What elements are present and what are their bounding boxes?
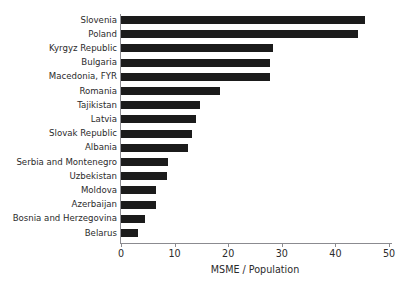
bar-row xyxy=(121,30,389,38)
bar xyxy=(121,16,365,24)
y-axis-label: Azerbaijan xyxy=(72,200,117,209)
y-axis-label: Kyrgyz Republic xyxy=(49,44,117,53)
bar-row xyxy=(121,87,389,95)
y-axis-label: Bosnia and Herzegovina xyxy=(13,214,117,223)
y-axis-label: Romania xyxy=(79,87,117,96)
y-axis-label: Uzbekistan xyxy=(70,172,117,181)
bar-row xyxy=(121,115,389,123)
bar xyxy=(121,130,192,138)
bar-row xyxy=(121,73,389,81)
x-axis-tick xyxy=(335,243,336,247)
y-axis-label: Slovenia xyxy=(80,16,117,25)
x-axis-title-text: MSME / Population xyxy=(211,264,299,275)
bar xyxy=(121,186,156,194)
bar xyxy=(121,115,196,123)
y-axis-label: Poland xyxy=(88,30,117,39)
x-axis-tick xyxy=(175,243,176,247)
bar xyxy=(121,44,273,52)
x-axis-tick xyxy=(121,243,122,247)
bar xyxy=(121,144,188,152)
x-axis-tick-label: 50 xyxy=(383,248,395,259)
x-axis-tick-label: 0 xyxy=(118,248,124,259)
bar xyxy=(121,73,270,81)
bar-row xyxy=(121,44,389,52)
x-axis-tick xyxy=(389,243,390,247)
bar-row xyxy=(121,158,389,166)
bar-row xyxy=(121,201,389,209)
plot-area xyxy=(121,16,389,242)
bar-row xyxy=(121,215,389,223)
bar xyxy=(121,158,168,166)
bar-row xyxy=(121,101,389,109)
x-axis-tick-label: 10 xyxy=(168,248,180,259)
y-axis-label: Serbia and Montenegro xyxy=(16,158,117,167)
bar xyxy=(121,215,145,223)
bar xyxy=(121,172,167,180)
x-axis-tick-label: 20 xyxy=(222,248,234,259)
chart-container: SloveniaPolandKyrgyz RepublicBulgariaMac… xyxy=(0,0,406,284)
x-axis-tick-label: 40 xyxy=(329,248,341,259)
bar xyxy=(121,229,138,237)
clipped-title xyxy=(0,0,406,3)
bar-row xyxy=(121,186,389,194)
x-axis-tick-label: 30 xyxy=(276,248,288,259)
bar xyxy=(121,30,358,38)
bar xyxy=(121,101,200,109)
bar-row xyxy=(121,130,389,138)
y-axis-label: Bulgaria xyxy=(81,58,117,67)
y-axis-label: Albania xyxy=(85,143,117,152)
y-axis-category-labels: SloveniaPolandKyrgyz RepublicBulgariaMac… xyxy=(0,16,117,242)
bar-row xyxy=(121,59,389,67)
y-axis-label: Belarus xyxy=(85,229,117,238)
bar-row xyxy=(121,16,389,24)
y-axis-label: Tajikistan xyxy=(77,101,117,110)
y-axis-label: Slovak Republic xyxy=(49,129,117,138)
x-axis-line xyxy=(120,243,392,244)
y-axis-label: Latvia xyxy=(91,115,117,124)
y-axis-label: Moldova xyxy=(81,186,117,195)
bar xyxy=(121,87,220,95)
x-axis-tick xyxy=(228,243,229,247)
y-axis-label: Macedonia, FYR xyxy=(49,72,117,81)
x-axis-title: MSME / Population xyxy=(0,264,406,275)
bar xyxy=(121,201,156,209)
x-axis-tick xyxy=(282,243,283,247)
bar xyxy=(121,59,270,67)
bar-row xyxy=(121,229,389,237)
bar-row xyxy=(121,172,389,180)
bar-row xyxy=(121,144,389,152)
